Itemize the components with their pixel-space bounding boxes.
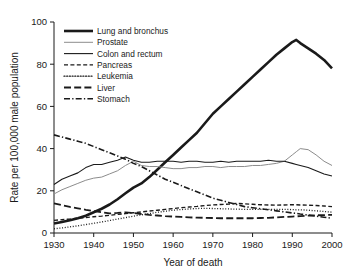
x-tick-label: 1980 (242, 239, 263, 250)
chart-figure: 0204060801001930194019501960197019801990… (0, 0, 346, 278)
x-tick-label: 1940 (83, 239, 104, 250)
x-tick-label: 2000 (321, 239, 342, 250)
data-series (54, 40, 332, 229)
x-tick-label: 1990 (282, 239, 303, 250)
x-tick-label: 1930 (43, 239, 64, 250)
y-tick-label: 20 (36, 185, 47, 196)
axes: 0204060801001930194019501960197019801990… (31, 16, 342, 250)
legend-label-liver: Liver (97, 83, 115, 93)
series-line-prostate (54, 149, 332, 194)
x-tick-label: 1950 (123, 239, 144, 250)
legend-label-stomach: Stomach (97, 94, 130, 104)
y-tick-label: 80 (36, 59, 47, 70)
legend-label-prostate: Prostate (97, 37, 128, 47)
line-chart: 0204060801001930194019501960197019801990… (0, 0, 346, 278)
x-tick-label: 1970 (202, 239, 223, 250)
y-tick-label: 40 (36, 143, 47, 154)
x-axis-title: Year of death (163, 257, 222, 268)
legend-label-lung-and-bronchus: Lung and bronchus (97, 26, 168, 36)
x-tick-label: 1960 (163, 239, 184, 250)
y-tick-label: 0 (42, 227, 47, 238)
series-line-lung-and-bronchus (54, 40, 332, 224)
series-line-colon-and-rectum (54, 157, 332, 184)
axis-spine (54, 22, 332, 233)
series-line-stomach (54, 135, 332, 218)
legend-label-colon-and-rectum: Colon and rectum (97, 49, 163, 59)
y-tick-label: 60 (36, 101, 47, 112)
y-tick-label: 100 (31, 16, 47, 27)
chart-legend: Lung and bronchusProstateColon and rectu… (64, 26, 168, 104)
legend-label-pancreas: Pancreas (97, 60, 132, 70)
y-axis-title: Rate per 100,000 male population (9, 52, 20, 203)
legend-label-leukemia: Leukemia (97, 71, 133, 81)
